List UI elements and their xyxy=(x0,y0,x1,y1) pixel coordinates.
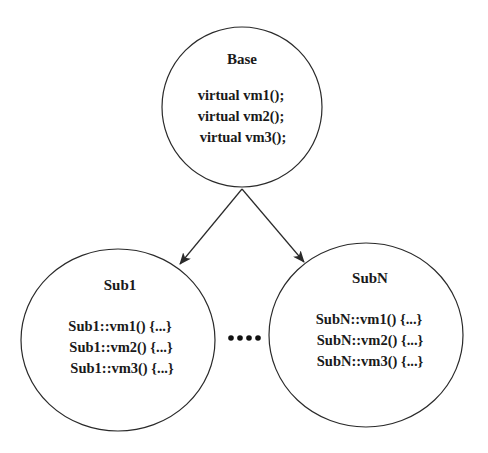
base-method-1: virtual vm1(); xyxy=(198,87,285,104)
subn-method-1: SubN::vm1() {...} xyxy=(316,311,423,328)
sub1-method-2: Sub1::vm2() {...} xyxy=(69,339,173,356)
subn-title: SubN xyxy=(352,270,388,286)
sub1-method-1: Sub1::vm1() {...} xyxy=(68,318,172,335)
sub1-method-3: Sub1::vm3() {...} xyxy=(70,360,174,377)
inheritance-diagram: Base virtual vm1(); virtual vm2(); virtu… xyxy=(0,0,488,453)
base-method-3: virtual vm3(); xyxy=(200,129,287,146)
sub1-title: Sub1 xyxy=(104,277,137,293)
node-sub1: Sub1 Sub1::vm1() {...} Sub1::vm2() {...}… xyxy=(21,249,215,431)
edge-base-to-subn xyxy=(242,189,304,262)
edge-base-to-sub1 xyxy=(180,189,242,264)
base-method-2: virtual vm2(); xyxy=(198,108,285,125)
subn-method-3: SubN::vm3() {...} xyxy=(317,353,424,370)
base-title: Base xyxy=(227,51,257,67)
subn-method-2: SubN::vm2() {...} xyxy=(317,332,424,349)
node-base: Base virtual vm1(); virtual vm2(); virtu… xyxy=(162,27,322,187)
node-subn: SubN SubN::vm1() {...} SubN::vm2() {...}… xyxy=(269,243,463,427)
ellipsis-dots xyxy=(228,335,261,341)
